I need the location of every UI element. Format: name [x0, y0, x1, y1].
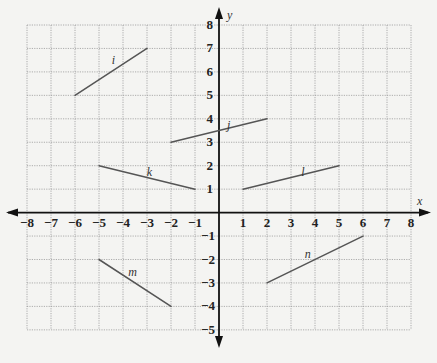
y-tick-label: −2 — [201, 252, 215, 267]
x-tick-label: −6 — [68, 215, 82, 230]
x-tick-label: 8 — [408, 215, 415, 230]
x-axis-right-arrow-icon — [419, 209, 431, 217]
segment-label-i: i — [112, 53, 115, 67]
y-tick-label: 5 — [207, 87, 214, 102]
x-tick-label: 3 — [288, 215, 295, 230]
y-tick-label: 7 — [207, 40, 214, 55]
y-tick-label: −1 — [201, 228, 215, 243]
x-axis-label: x — [416, 194, 423, 208]
tick-labels: −8−7−6−5−4−3−2−11234567812345678−1−2−3−4… — [20, 17, 415, 337]
y-axis-up-arrow-icon — [215, 7, 223, 19]
y-tick-label: 1 — [207, 181, 214, 196]
x-tick-label: −1 — [188, 215, 202, 230]
segment-label-n: n — [305, 247, 311, 261]
y-tick-label: 4 — [207, 111, 214, 126]
segment-label-l: l — [301, 165, 305, 179]
segment-label-m: m — [128, 265, 137, 279]
y-tick-label: 2 — [207, 158, 214, 173]
x-tick-label: −2 — [164, 215, 178, 230]
y-tick-label: −5 — [201, 322, 215, 337]
x-tick-label: 6 — [360, 215, 367, 230]
x-tick-label: −8 — [20, 215, 34, 230]
y-tick-label: 3 — [207, 134, 214, 149]
coordinate-plane: xy −8−7−6−5−4−3−2−11234567812345678−1−2−… — [0, 0, 437, 363]
x-tick-label: −3 — [140, 215, 154, 230]
y-axis-label: y — [226, 8, 233, 22]
x-axis-left-arrow-icon — [6, 209, 18, 217]
y-tick-label: −4 — [201, 298, 215, 313]
y-axis-down-arrow-icon — [215, 336, 223, 348]
axes: xy — [6, 7, 431, 348]
x-tick-label: 4 — [312, 215, 319, 230]
x-tick-label: 5 — [336, 215, 343, 230]
y-tick-label: 6 — [207, 64, 214, 79]
y-tick-label: 8 — [207, 17, 214, 32]
segment-label-k: k — [147, 165, 153, 179]
x-tick-label: 1 — [240, 215, 247, 230]
x-tick-label: 2 — [264, 215, 271, 230]
x-tick-label: 7 — [384, 215, 391, 230]
y-tick-label: −3 — [201, 275, 215, 290]
x-tick-label: −5 — [92, 215, 106, 230]
x-tick-label: −7 — [44, 215, 58, 230]
x-tick-label: −4 — [116, 215, 130, 230]
